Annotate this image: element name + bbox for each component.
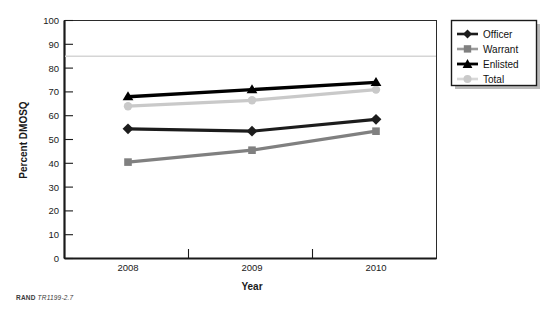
y-tick-label: 20	[48, 205, 59, 216]
legend-label-total: Total	[483, 74, 504, 85]
y-tick-label: 100	[43, 15, 59, 26]
y-axis-tick-labels: 0 10 20 30 40 50 60 70 80 90 100	[43, 15, 59, 264]
data-point-total-2009	[248, 96, 256, 104]
y-tick-label: 10	[48, 229, 59, 240]
source-note: RAND TR1199-2.7	[16, 294, 73, 301]
data-point-warrant-2008	[124, 158, 132, 166]
source-note-id: TR1199-2.7	[38, 294, 74, 301]
y-tick-label: 70	[48, 86, 59, 97]
legend[interactable]: Officer Warrant Enlisted Total	[452, 21, 541, 90]
circle-marker	[464, 75, 472, 83]
square-marker	[464, 45, 471, 52]
x-axis-title: Year	[241, 281, 262, 292]
y-tick-label: 30	[48, 182, 59, 193]
x-tick-label: 2010	[365, 262, 386, 273]
data-point-total-2008	[124, 102, 132, 110]
figure-container: 0 10 20 30 40 50 60 70 80 90 100 2008 20…	[0, 0, 549, 323]
data-point-warrant-2009	[248, 146, 256, 154]
y-tick-label: 0	[54, 253, 59, 264]
legend-label-officer: Officer	[483, 29, 513, 40]
dmosq-line-chart: 0 10 20 30 40 50 60 70 80 90 100 2008 20…	[0, 0, 549, 323]
source-note-prefix: RAND	[16, 294, 36, 301]
y-tick-label: 80	[48, 63, 59, 74]
data-point-total-2010	[372, 85, 380, 93]
y-tick-label: 90	[48, 39, 59, 50]
x-tick-label: 2009	[241, 262, 262, 273]
y-axis-title: Percent DMOSQ	[18, 101, 29, 178]
y-tick-label: 60	[48, 110, 59, 121]
legend-label-enlisted: Enlisted	[483, 59, 519, 70]
data-point-warrant-2010	[372, 127, 380, 135]
x-axis-tick-labels: 2008 2009 2010	[117, 262, 386, 273]
x-tick-label: 2008	[117, 262, 138, 273]
y-tick-label: 50	[48, 134, 59, 145]
legend-label-warrant: Warrant	[483, 44, 518, 55]
y-tick-label: 40	[48, 158, 59, 169]
